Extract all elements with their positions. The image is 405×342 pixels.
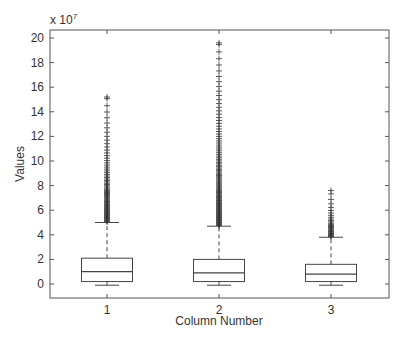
box-2 bbox=[194, 40, 245, 285]
outliers bbox=[328, 188, 334, 240]
x-tick-label: 3 bbox=[328, 303, 335, 317]
y-tick-label: 20 bbox=[31, 31, 45, 45]
outliers bbox=[104, 94, 110, 225]
box-1 bbox=[82, 94, 133, 285]
y-tick-label: 4 bbox=[37, 228, 44, 242]
box-plot: 02468101214161820123 Column Number Value… bbox=[0, 0, 405, 342]
y-tick-label: 18 bbox=[31, 56, 45, 70]
box-3 bbox=[306, 188, 357, 286]
x-tick-label: 1 bbox=[104, 303, 111, 317]
iqr-box bbox=[306, 264, 357, 281]
y-tick-label: 2 bbox=[37, 252, 44, 266]
outliers bbox=[216, 40, 222, 229]
y-tick-label: 16 bbox=[31, 80, 45, 94]
x-axis-label: Column Number bbox=[175, 314, 262, 328]
iqr-box bbox=[82, 258, 133, 281]
y-tick-label: 12 bbox=[31, 129, 45, 143]
y-tick-label: 6 bbox=[37, 203, 44, 217]
iqr-box bbox=[194, 259, 245, 281]
y-tick-label: 14 bbox=[31, 105, 45, 119]
boxes bbox=[82, 40, 357, 285]
y-tick-label: 8 bbox=[37, 179, 44, 193]
y-axis-label: Values bbox=[13, 146, 27, 182]
y-exponent-label: x 107 bbox=[50, 12, 78, 27]
y-tick-label: 10 bbox=[31, 154, 45, 168]
y-tick-label: 0 bbox=[37, 277, 44, 291]
